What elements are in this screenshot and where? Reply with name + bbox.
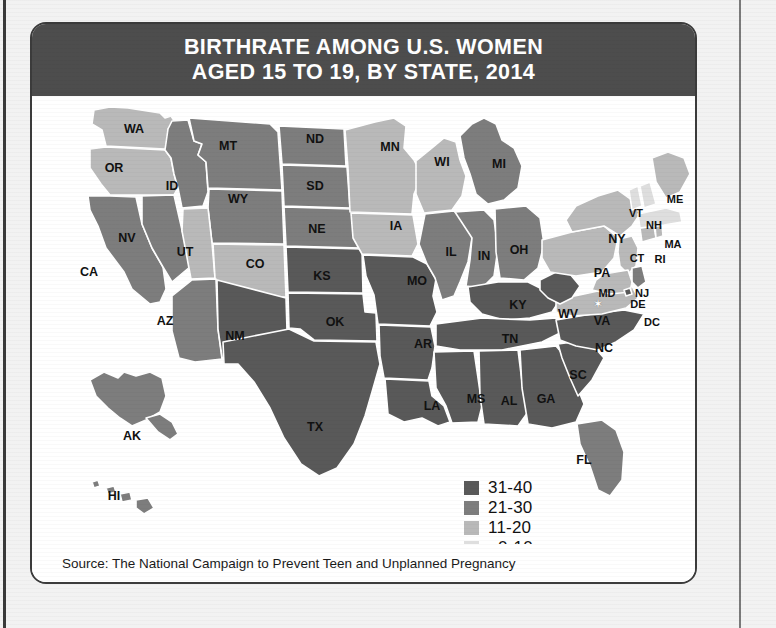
state-mn[interactable] [345, 118, 422, 214]
legend-item-21-30[interactable]: 21-30 [464, 498, 604, 517]
state-ak[interactable] [146, 414, 178, 440]
state-nd[interactable] [279, 126, 346, 166]
page-right-edge [739, 0, 741, 628]
page-title-line-1: BIRTHRATE AMONG U.S. WOMEN [184, 35, 543, 60]
scanned-page: BIRTHRATE AMONG U.S. WOMEN AGED 15 TO 19… [0, 0, 776, 628]
state-ia[interactable] [351, 213, 418, 256]
state-ma[interactable] [638, 208, 682, 228]
state-ks[interactable] [286, 247, 363, 293]
legend-label-31-40: 31-40 [488, 478, 532, 498]
state-pa[interactable] [542, 226, 618, 276]
state-ar[interactable] [379, 325, 435, 380]
state-ok[interactable] [288, 293, 377, 341]
state-hi[interactable] [120, 492, 132, 502]
state-mi[interactable] [460, 118, 522, 204]
state-de[interactable] [632, 266, 646, 288]
source-text: Source: The National Campaign to Prevent… [62, 556, 516, 571]
page-title-line-2: AGED 15 TO 19, BY STATE, 2014 [192, 60, 535, 85]
state-or[interactable] [90, 147, 178, 195]
infographic-card: BIRTHRATE AMONG U.S. WOMEN AGED 15 TO 19… [30, 22, 697, 584]
state-ri[interactable] [655, 225, 663, 238]
state-sd[interactable] [282, 165, 350, 208]
state-oh[interactable] [495, 206, 544, 280]
legend-label-11-20: 11-20 [488, 518, 531, 538]
state-wi[interactable] [416, 138, 466, 213]
state-me[interactable] [652, 152, 690, 198]
state-hi[interactable] [136, 498, 154, 514]
state-hi[interactable] [92, 480, 100, 488]
source-bar: Source: The National Campaign to Prevent… [32, 544, 695, 582]
title-banner: BIRTHRATE AMONG U.S. WOMEN AGED 15 TO 19… [32, 24, 695, 96]
state-tx[interactable] [223, 329, 380, 476]
us-choropleth-map: WAORIDMTWYNVCAUTCOAZNMNDSDNEKSOKTXMNIAMO… [32, 96, 695, 548]
legend-label-21-30: 21-30 [488, 498, 532, 518]
legend-item-31-40[interactable]: 31-40 [464, 478, 604, 497]
state-wy[interactable] [208, 189, 284, 244]
state-dc[interactable] [624, 288, 632, 296]
state-wa[interactable] [92, 107, 175, 149]
legend-swatch-31-40 [464, 481, 479, 495]
state-hi[interactable] [106, 486, 116, 494]
legend-item-11-20[interactable]: 11-20 [464, 518, 604, 537]
state-tn[interactable] [436, 318, 562, 350]
page-left-edge [3, 0, 6, 628]
legend-swatch-11-20 [464, 521, 479, 535]
state-az[interactable] [172, 279, 222, 362]
legend-swatch-21-30 [464, 501, 479, 515]
